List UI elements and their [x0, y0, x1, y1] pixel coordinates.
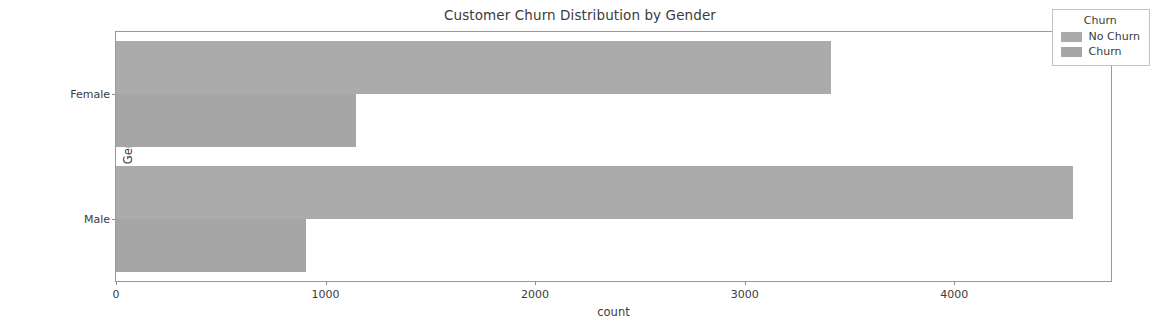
chart-figure: Customer Churn Distribution by Gender Ge…: [0, 0, 1160, 335]
x-tick-mark: [326, 281, 327, 285]
x-tick-label: 1000: [312, 288, 340, 301]
legend: Churn No Churn Churn: [1052, 9, 1150, 66]
x-tick-mark: [535, 281, 536, 285]
x-tick-label: 4000: [940, 288, 968, 301]
legend-item-churn: Churn: [1061, 45, 1140, 58]
x-axis-label: count: [116, 305, 1111, 319]
bar-male-churn: [116, 219, 306, 272]
x-tick-label: 3000: [731, 288, 759, 301]
legend-label: No Churn: [1089, 30, 1140, 43]
legend-title: Churn: [1061, 14, 1140, 27]
legend-label: Churn: [1089, 45, 1122, 58]
plot-area: Gender count FemaleMale01000200030004000: [115, 31, 1112, 282]
y-tick-mark: [112, 219, 116, 220]
legend-swatch-icon: [1061, 47, 1082, 57]
x-tick-label: 2000: [521, 288, 549, 301]
x-tick-mark: [116, 281, 117, 285]
legend-item-no-churn: No Churn: [1061, 30, 1140, 43]
bar-male-no-churn: [116, 166, 1073, 219]
bar-female-churn: [116, 94, 356, 147]
bars-layer: [116, 32, 1111, 281]
x-tick-label: 0: [113, 288, 120, 301]
y-tick-mark: [112, 94, 116, 95]
y-tick-label: Male: [84, 212, 110, 225]
legend-swatch-icon: [1061, 32, 1082, 42]
y-tick-label: Female: [70, 88, 110, 101]
bar-female-no-churn: [116, 41, 831, 94]
chart-title: Customer Churn Distribution by Gender: [0, 7, 1160, 23]
x-tick-mark: [745, 281, 746, 285]
x-tick-mark: [954, 281, 955, 285]
